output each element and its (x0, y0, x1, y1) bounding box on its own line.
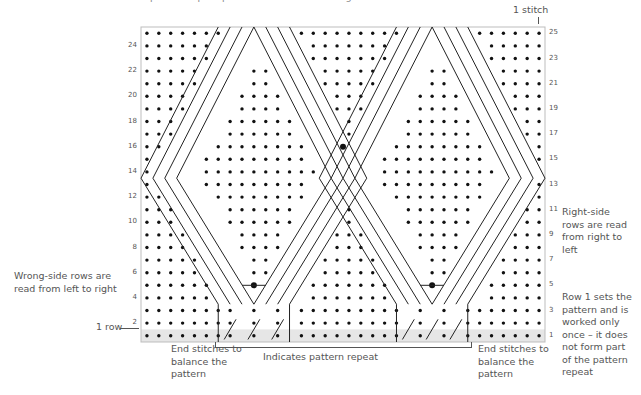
row-number-right: 13 (549, 180, 563, 188)
one-row-marker (120, 328, 139, 329)
end-stitches-right-note: End stitches to balance the pattern (478, 343, 558, 381)
end-stitches-left-note: End stitches to balance the pattern (171, 343, 251, 381)
row-number-right: 1 (549, 331, 563, 339)
row-number-left: 4 (123, 293, 137, 301)
row-number-right: 11 (549, 205, 563, 213)
pattern-repeat-bracket (215, 342, 472, 348)
row-number-left: 20 (123, 91, 137, 99)
row-number-left: 14 (123, 167, 137, 175)
row-number-left: 10 (123, 217, 137, 225)
row-number-left: 6 (123, 268, 137, 276)
row-number-right: 23 (549, 54, 563, 62)
row-number-right: 3 (549, 306, 563, 314)
row-number-left: 24 (123, 41, 137, 49)
row-number-right: 9 (549, 230, 563, 238)
row-number-left: 12 (123, 192, 137, 200)
row-number-left: 2 (123, 318, 137, 326)
row-number-left: 22 (123, 66, 137, 74)
row-number-right: 5 (549, 280, 563, 288)
row-number-left: 16 (123, 142, 137, 150)
row-number-right: 25 (549, 28, 563, 36)
pattern-repeat-label: Indicates pattern repeat (263, 351, 378, 364)
row-number-left: 18 (123, 117, 137, 125)
row-number-right: 7 (549, 255, 563, 263)
row-number-right: 19 (549, 104, 563, 112)
wrong-side-note: Wrong-side rows are read from left to ri… (14, 270, 119, 295)
cable-chart (0, 0, 641, 395)
one-row-label: 1 row (96, 321, 122, 333)
row1-note: Row 1 sets the pattern and is worked onl… (562, 291, 637, 379)
row-number-left: 8 (123, 243, 137, 251)
row-number-right: 17 (549, 129, 563, 137)
row-number-right: 15 (549, 154, 563, 162)
right-side-note: Right-side rows are read from right to l… (562, 206, 632, 256)
row-number-right: 21 (549, 79, 563, 87)
